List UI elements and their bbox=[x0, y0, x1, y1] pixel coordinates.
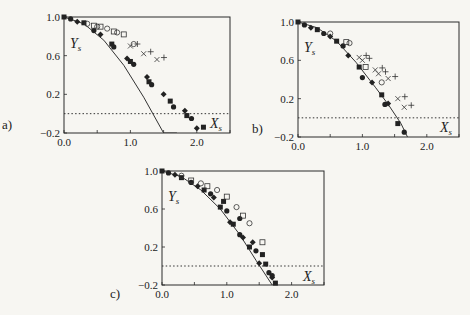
data-point-cross bbox=[128, 41, 140, 49]
y-tick-label: 0.6 bbox=[46, 50, 60, 62]
data-point-diamond bbox=[250, 239, 256, 245]
data-point-circle bbox=[360, 75, 365, 80]
y-tick-label: −0.2 bbox=[274, 131, 294, 143]
y-axis-label: Ys bbox=[304, 40, 316, 57]
data-point-circle bbox=[402, 130, 407, 135]
data-point-open-square bbox=[111, 29, 116, 34]
data-point-cross bbox=[154, 55, 167, 63]
data-point-diamond bbox=[161, 91, 167, 97]
data-point-diamond bbox=[256, 260, 262, 266]
data-point-open-circle bbox=[234, 205, 239, 210]
panel-label-b: b) bbox=[252, 121, 263, 136]
y-axis-label: Ys bbox=[168, 189, 180, 206]
data-point-square bbox=[273, 281, 278, 286]
data-point-diamond bbox=[194, 125, 200, 131]
data-point-square bbox=[221, 199, 226, 204]
data-point-open-square bbox=[224, 194, 229, 199]
data-point-circle bbox=[149, 82, 154, 87]
data-point-open-circle bbox=[347, 40, 352, 45]
data-point-diamond bbox=[172, 172, 178, 178]
data-point-square bbox=[379, 92, 384, 97]
data-point-open-square bbox=[260, 240, 265, 245]
y-tick-label: −0.2 bbox=[138, 279, 158, 291]
data-point-square bbox=[160, 169, 165, 174]
data-point-square bbox=[62, 15, 67, 20]
data-point-open-circle bbox=[95, 24, 100, 29]
panel-label-c: c) bbox=[110, 286, 120, 301]
data-point-square bbox=[81, 20, 86, 25]
data-point-circle bbox=[224, 208, 229, 213]
data-point-diamond bbox=[144, 74, 150, 80]
y-tick-label: 0.2 bbox=[280, 93, 294, 105]
data-point-circle bbox=[189, 116, 194, 121]
data-point-cross bbox=[402, 102, 415, 110]
model-curve bbox=[162, 171, 272, 285]
panel-label-a: a) bbox=[2, 117, 12, 132]
y-tick-label: 0.6 bbox=[144, 203, 158, 215]
data-point-open-circle bbox=[105, 26, 110, 31]
data-point-open-circle bbox=[115, 30, 120, 35]
data-point-cross bbox=[373, 65, 386, 73]
x-tick-label: 1.0 bbox=[124, 136, 138, 148]
data-point-square bbox=[263, 262, 268, 267]
data-point-diamond bbox=[182, 108, 188, 114]
data-point-diamond bbox=[345, 53, 351, 59]
y-tick-label: 1.0 bbox=[46, 11, 60, 23]
data-point-cross bbox=[141, 49, 154, 57]
x-axis-label: Xs bbox=[302, 269, 316, 286]
data-point-square bbox=[201, 125, 206, 130]
data-point-circle bbox=[270, 273, 275, 278]
data-point-circle bbox=[68, 16, 73, 21]
x-axis-label: Xs bbox=[209, 116, 223, 133]
y-tick-label: 0.6 bbox=[280, 54, 294, 66]
data-point-open-circle bbox=[247, 221, 252, 226]
data-point-square bbox=[168, 99, 173, 104]
x-tick-label: 2.0 bbox=[285, 288, 299, 300]
data-point-cross bbox=[357, 52, 370, 60]
data-point-square bbox=[218, 205, 223, 210]
data-point-open-square bbox=[91, 23, 96, 28]
data-point-square bbox=[395, 121, 400, 126]
data-point-circle bbox=[302, 22, 307, 27]
model-curve bbox=[298, 22, 408, 137]
data-point-square bbox=[334, 39, 339, 44]
data-point-diamond bbox=[98, 31, 104, 37]
data-point-circle bbox=[131, 62, 136, 67]
data-point-cross bbox=[395, 94, 408, 102]
y-tick-label: 0.2 bbox=[46, 88, 60, 100]
data-point-open-square bbox=[121, 32, 126, 37]
data-point-diamond bbox=[195, 183, 201, 189]
data-point-cross bbox=[386, 74, 399, 82]
x-tick-label: 2.0 bbox=[190, 136, 204, 148]
data-point-square bbox=[184, 113, 189, 118]
data-point-circle bbox=[189, 180, 194, 185]
x-tick-label: 1.0 bbox=[356, 140, 370, 152]
data-point-open-circle bbox=[214, 187, 219, 192]
y-axis-label: Ys bbox=[70, 36, 82, 53]
data-point-circle bbox=[253, 248, 258, 253]
data-point-circle bbox=[321, 31, 326, 36]
y-tick-label: 1.0 bbox=[144, 165, 158, 177]
x-tick-label: 2.0 bbox=[420, 140, 434, 152]
data-point-square bbox=[296, 20, 301, 25]
plot-frame bbox=[298, 22, 459, 137]
data-point-circle bbox=[340, 43, 345, 48]
data-point-circle bbox=[166, 170, 171, 175]
model-curve bbox=[64, 17, 177, 133]
data-point-square bbox=[315, 27, 320, 32]
data-point-circle bbox=[171, 104, 176, 109]
data-point-square bbox=[357, 65, 362, 70]
data-point-square bbox=[231, 222, 236, 227]
y-tick-label: −0.2 bbox=[40, 127, 60, 139]
y-tick-label: 0.2 bbox=[144, 241, 158, 253]
x-axis-label: Xs bbox=[439, 120, 453, 137]
plot-frame bbox=[162, 171, 324, 285]
plot-panel-c: 0.01.02.01.00.60.2−0.2YsXsc) bbox=[110, 165, 324, 301]
data-point-circle bbox=[111, 44, 116, 49]
plot-panel-a: 0.01.02.01.00.60.2−0.2YsXsa) bbox=[2, 11, 230, 148]
data-point-open-circle bbox=[198, 181, 203, 186]
data-point-square bbox=[202, 188, 207, 193]
data-point-square bbox=[247, 245, 252, 250]
data-point-open-circle bbox=[379, 80, 384, 85]
data-point-open-square bbox=[363, 65, 368, 70]
